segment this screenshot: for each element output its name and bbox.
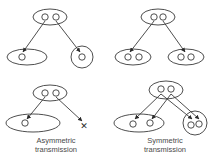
transmission-arrow	[130, 21, 154, 52]
lost-x-icon: ✕	[80, 121, 88, 131]
allele-circle	[151, 14, 157, 20]
panel-bottom-left: ✕	[6, 85, 88, 132]
transmission-diagram: ✕	[0, 0, 216, 159]
allele-circle	[130, 121, 136, 127]
allele-circle	[125, 54, 131, 60]
caption-line: transmission	[16, 146, 96, 155]
daughter-circle	[71, 46, 93, 68]
transmission-arrow	[56, 21, 80, 52]
allele-circle	[160, 14, 166, 20]
allele-circle	[42, 14, 48, 20]
transmission-arrow	[27, 97, 45, 119]
parent-ellipse	[33, 9, 67, 25]
panel-top-right	[115, 9, 204, 65]
allele-circle	[188, 54, 194, 60]
allele-circle	[79, 54, 85, 60]
parent-ellipse	[149, 81, 183, 99]
allele-circle	[147, 120, 153, 126]
transmission-arrow	[23, 21, 45, 52]
allele-circle	[158, 86, 164, 92]
daughter-ellipse	[115, 49, 151, 65]
daughter-ellipse	[168, 49, 204, 65]
daughter-ellipse	[6, 114, 60, 132]
allele-circle	[22, 120, 28, 126]
allele-circle	[136, 54, 142, 60]
allele-circle	[19, 54, 25, 60]
allele-circle	[42, 90, 48, 96]
daughter-ellipse	[114, 114, 164, 132]
allele-circle	[178, 54, 184, 60]
allele-circle	[53, 90, 59, 96]
transmission-arrow	[152, 94, 171, 119]
parent-ellipse	[141, 9, 175, 25]
allele-circle	[168, 86, 174, 92]
transmission-arrow	[161, 94, 192, 119]
transmission-arrow	[56, 97, 82, 121]
transmission-arrow	[135, 94, 161, 119]
parent-ellipse	[33, 85, 67, 101]
transmission-arrow	[163, 21, 185, 52]
allele-circle	[188, 122, 194, 128]
allele-circle	[53, 14, 59, 20]
asymmetric-transmission-caption: Asymmetric transmission	[16, 137, 96, 154]
symmetric-transmission-caption: Symmetric transmission	[125, 137, 205, 154]
allele-circle	[196, 121, 202, 127]
panel-top-left	[7, 9, 93, 68]
panel-bottom-right	[114, 81, 207, 135]
daughter-ellipse	[7, 49, 47, 65]
transmission-arrow	[171, 94, 199, 119]
caption-line: transmission	[125, 146, 205, 155]
